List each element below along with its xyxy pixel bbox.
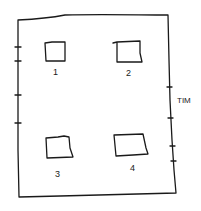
box-2 (113, 41, 142, 62)
box-1 (45, 42, 65, 61)
box-4 (114, 134, 148, 156)
sketch-canvas: 1 2 3 4 TIM (0, 0, 201, 211)
box-3-label: 3 (55, 169, 60, 179)
outer-frame (18, 15, 176, 197)
side-label-tim: TIM (177, 96, 191, 105)
box-4-label: 4 (130, 163, 135, 173)
box-1-label: 1 (53, 67, 58, 77)
box-3 (46, 136, 73, 158)
box-2-label: 2 (126, 68, 131, 78)
